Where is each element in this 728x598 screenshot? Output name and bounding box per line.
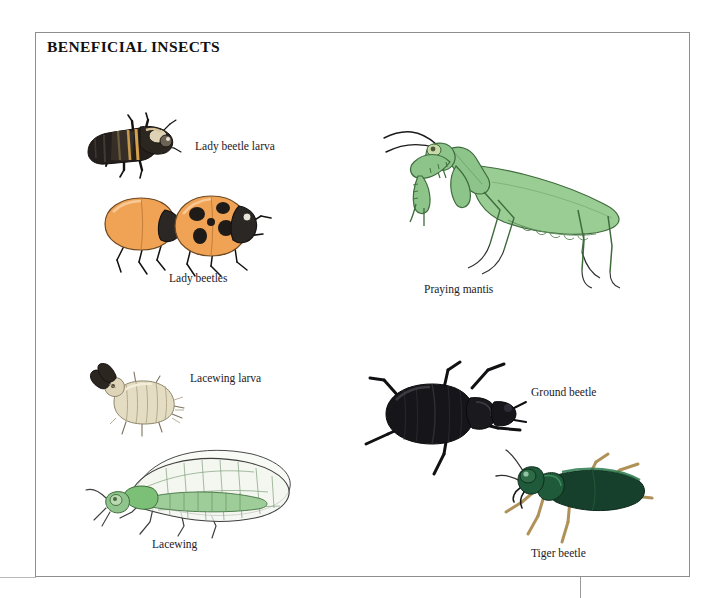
figure-lady-beetle-larva (78, 108, 188, 188)
label-lacewing: Lacewing (152, 538, 197, 550)
label-lady-beetle-larva: Lady beetle larva (195, 140, 275, 152)
label-ground-beetle: Ground beetle (531, 386, 596, 398)
figure-lacewing (84, 438, 309, 548)
figure-lady-beetles (95, 186, 275, 286)
label-tiger-beetle: Tiger beetle (531, 547, 586, 559)
figure-praying-mantis (372, 100, 632, 290)
page-edge-horizontal-rule (0, 577, 36, 578)
page-title: BENEFICIAL INSECTS (47, 38, 220, 56)
figure-tiger-beetle (492, 442, 662, 552)
label-lady-beetles: Lady beetles (169, 272, 227, 284)
page-canvas: BENEFICIAL INSECTS (0, 0, 728, 598)
figure-lacewing-larva (86, 362, 201, 444)
page-edge-vertical-rule (580, 577, 581, 598)
label-lacewing-larva: Lacewing larva (190, 372, 261, 384)
label-praying-mantis: Praying mantis (424, 283, 493, 295)
